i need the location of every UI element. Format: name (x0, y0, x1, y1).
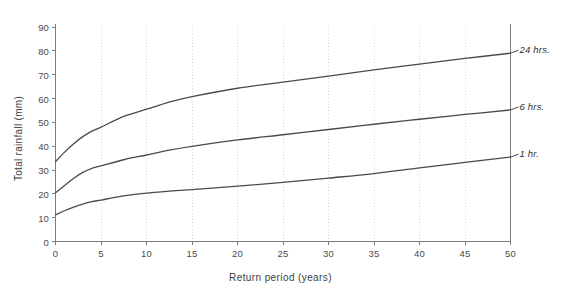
series-line-2 (56, 157, 511, 215)
x-tick-label: 35 (369, 248, 380, 259)
y-axis-title: Total rainfall (mm) (13, 59, 24, 219)
x-tick-label: 30 (323, 248, 334, 259)
y-tick-label: 30 (0, 165, 49, 176)
x-tick-label: 0 (53, 248, 58, 259)
axis-ticks (52, 27, 511, 245)
y-tick-label: 40 (0, 141, 49, 152)
y-tick-label: 80 (0, 45, 49, 56)
y-tick-label: 90 (0, 22, 49, 33)
x-tick-label: 40 (414, 248, 425, 259)
y-tick-label: 10 (0, 212, 49, 223)
x-tick-label: 5 (98, 248, 103, 259)
x-tick-label: 15 (187, 248, 198, 259)
series-label-1: 6 hrs. (520, 100, 545, 111)
series-label-2: 1 hr. (520, 148, 540, 159)
gridlines (101, 27, 511, 242)
y-tick-label: 50 (0, 117, 49, 128)
y-tick-label: 60 (0, 93, 49, 104)
y-tick-label: 70 (0, 69, 49, 80)
label-leader-lines (511, 50, 519, 157)
x-axis-title: Return period (years) (0, 272, 561, 283)
x-tick-label: 20 (232, 248, 243, 259)
x-tick-label: 25 (278, 248, 289, 259)
series-line-1 (56, 110, 511, 193)
x-tick-label: 50 (505, 248, 516, 259)
x-tick-label: 10 (141, 248, 152, 259)
x-tick-label: 45 (460, 248, 471, 259)
y-tick-label: 0 (0, 236, 49, 247)
rainfall-return-period-chart: 0102030405060708090 05101520253035404550… (0, 0, 561, 300)
y-tick-label: 20 (0, 188, 49, 199)
series-label-0: 24 hrs. (520, 44, 550, 55)
